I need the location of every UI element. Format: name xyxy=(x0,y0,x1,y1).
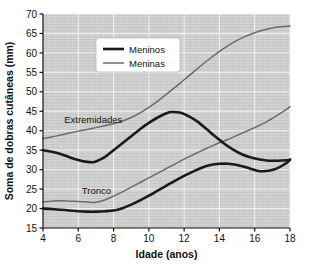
y-axis-tick-label: 40 xyxy=(26,125,38,136)
y-axis-tick-label: 30 xyxy=(26,164,38,175)
annotation-extremidades: Extremidades xyxy=(64,114,122,125)
y-axis-tick-label: 70 xyxy=(26,9,38,20)
y-axis-tick-label: 45 xyxy=(26,106,38,117)
x-axis-title: Idade (anos) xyxy=(136,248,198,260)
chart-screenshot: 1520253035404550556065704681012141618Ida… xyxy=(0,0,309,268)
y-axis-tick-label: 15 xyxy=(26,223,38,234)
y-axis-tick-label: 60 xyxy=(26,48,38,59)
y-axis-tick-label: 65 xyxy=(26,28,38,39)
x-axis-tick-label: 6 xyxy=(76,233,82,244)
y-axis-tick-label: 50 xyxy=(26,86,38,97)
y-axis-tick-label: 20 xyxy=(26,203,38,214)
x-axis-tick-label: 14 xyxy=(214,233,226,244)
annotation-tronco: Tronco xyxy=(82,185,111,196)
y-axis-tick-label: 55 xyxy=(26,67,38,78)
x-axis-tick-label: 10 xyxy=(143,233,155,244)
legend-label-meninos: Meninos xyxy=(129,44,165,55)
skinfold-line-chart: 1520253035404550556065704681012141618Ida… xyxy=(0,0,309,268)
x-axis-tick-label: 18 xyxy=(284,233,296,244)
x-axis-tick-label: 16 xyxy=(249,233,261,244)
x-axis-tick-label: 12 xyxy=(179,233,191,244)
x-axis-tick-label: 8 xyxy=(111,233,117,244)
legend-label-meninas: Meninas xyxy=(129,58,165,69)
y-axis-title: Soma de dobras cutâneas (mm) xyxy=(3,42,15,201)
y-axis-tick-label: 25 xyxy=(26,184,38,195)
y-axis-tick-label: 35 xyxy=(26,145,38,156)
x-axis-tick-label: 4 xyxy=(40,233,46,244)
